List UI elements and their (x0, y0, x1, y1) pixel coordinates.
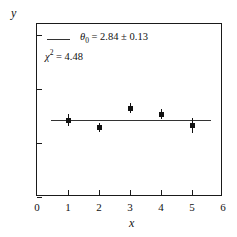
x-tick-label: 4 (151, 201, 171, 213)
x-tick (99, 190, 100, 195)
data-marker (97, 125, 102, 130)
data-marker (190, 123, 195, 128)
chi-annotation-text: χ2 = 4.48 (45, 48, 83, 62)
x-tick (192, 190, 193, 195)
y-tick (37, 89, 42, 90)
figure-scatter-plot-with-errorbars: y x 0246 0123456 θ0 = 2.84 ± 0.13 χ2 = 4… (0, 0, 237, 237)
y-tick (37, 143, 42, 144)
annotation-block: θ0 = 2.84 ± 0.13 χ2 = 4.48 (45, 31, 205, 65)
y-tick (37, 197, 42, 198)
fit-line (51, 120, 211, 121)
chi-value: = 4.48 (53, 51, 83, 62)
x-tick-label: 2 (89, 201, 109, 213)
plot-frame: 0246 0123456 θ0 = 2.84 ± 0.13 χ2 = 4.48 (36, 23, 222, 196)
x-tick (68, 190, 69, 195)
data-marker (128, 106, 133, 111)
theta-annotation-text: θ0 = 2.84 ± 0.13 (80, 31, 148, 45)
y-axis-label: y (11, 6, 16, 21)
data-marker (66, 118, 71, 123)
x-tick-label: 6 (213, 201, 233, 213)
y-tick (37, 35, 42, 36)
x-tick (161, 190, 162, 195)
theta-annotation-row: θ0 = 2.84 ± 0.13 (45, 31, 205, 48)
chi-annotation-row: χ2 = 4.48 (45, 48, 205, 65)
x-tick-label: 1 (58, 201, 78, 213)
x-axis-label: x (129, 216, 134, 231)
x-tick (130, 190, 131, 195)
x-tick-label: 0 (27, 201, 47, 213)
theta-value: = 2.84 ± 0.13 (89, 31, 148, 42)
data-marker (159, 112, 164, 117)
x-tick-label: 3 (120, 201, 140, 213)
x-tick-label: 5 (182, 201, 202, 213)
legend-line-sample (47, 39, 70, 40)
